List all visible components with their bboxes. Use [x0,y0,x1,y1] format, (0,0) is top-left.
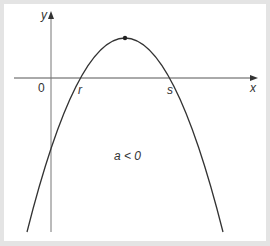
parabola-graph [0,0,270,246]
root-r-label: r [78,84,82,96]
vertex-point [123,36,127,40]
origin-label: 0 [38,82,45,94]
y-axis-label: y [41,9,47,21]
x-axis-label: x [250,82,256,94]
y-axis-arrow-icon [48,11,54,19]
figure-frame: y x 0 r s a < 0 [0,0,270,246]
condition-label: a < 0 [114,150,141,162]
root-s-label: s [167,84,173,96]
parabola-curve [27,38,223,232]
